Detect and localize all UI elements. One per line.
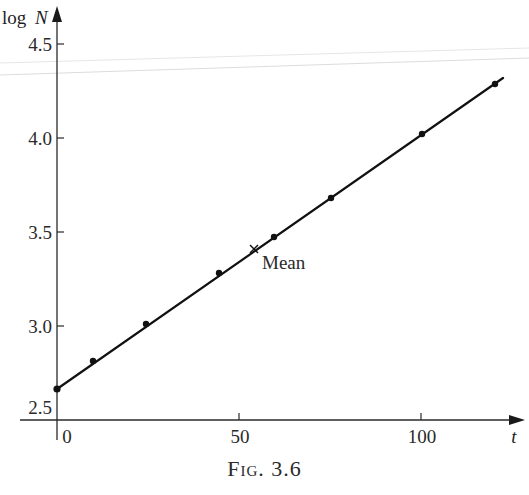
x-axis: 0 50 100 t xyxy=(20,413,525,447)
x-axis-label: t xyxy=(511,426,517,447)
x-tick-label-0: 0 xyxy=(62,426,72,447)
fitted-line xyxy=(57,78,503,389)
y-tick-label-4-0: 4.0 xyxy=(28,128,52,149)
x-axis-arrow-icon xyxy=(509,415,525,425)
y-tick-label-4-5: 4.5 xyxy=(28,34,52,55)
y-tick-label-3-0: 3.0 xyxy=(28,316,52,337)
y-tick-label-3-5: 3.5 xyxy=(28,222,52,243)
x-tick-label-50: 50 xyxy=(231,426,250,447)
data-point xyxy=(216,270,222,276)
data-point xyxy=(271,234,277,240)
y-axis: 4.5 4.0 3.5 3.0 2.5 log N xyxy=(2,6,64,440)
mean-annotation: Mean xyxy=(262,252,306,273)
y-axis-label-log: log xyxy=(2,7,27,28)
chart: 4.5 4.0 3.5 3.0 2.5 log N 0 50 100 t xyxy=(0,0,529,495)
x-tick-label-100: 100 xyxy=(408,426,437,447)
scan-artifacts xyxy=(0,48,529,75)
y-axis-arrow-icon xyxy=(52,6,62,22)
data-point xyxy=(328,195,334,201)
data-point xyxy=(53,385,60,392)
data-point xyxy=(90,358,96,364)
y-tick-label-2-5: 2.5 xyxy=(28,397,52,418)
y-axis-label-var: N xyxy=(34,7,49,28)
figure-caption: Fig. 3.6 xyxy=(0,456,529,482)
data-point xyxy=(492,81,498,87)
y-axis-label: log N xyxy=(2,7,49,28)
data-point xyxy=(143,321,149,327)
data-point xyxy=(419,131,425,137)
